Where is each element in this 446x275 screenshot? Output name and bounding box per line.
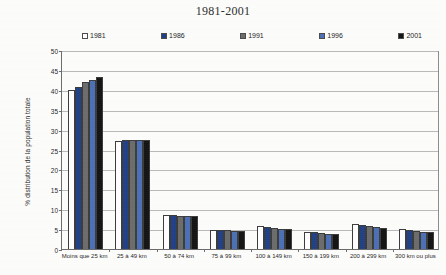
y-tick-label: 50 bbox=[51, 48, 58, 55]
legend-label: 2001 bbox=[406, 32, 422, 39]
bar-1996 bbox=[184, 216, 191, 249]
chart-legend: 19811986199119962001 bbox=[82, 29, 422, 42]
x-tick-label: 300 km ou plus bbox=[395, 253, 436, 259]
x-tick-mark bbox=[393, 249, 394, 252]
x-tick-mark bbox=[204, 249, 205, 252]
legend-label: 1986 bbox=[169, 32, 185, 39]
bar-group bbox=[393, 51, 440, 249]
bar-1991 bbox=[177, 216, 184, 249]
x-tick-mark bbox=[157, 249, 158, 252]
bar-2001 bbox=[285, 229, 292, 249]
bar-1981 bbox=[352, 224, 359, 249]
bar-2001 bbox=[380, 228, 387, 249]
bar-group bbox=[346, 51, 393, 249]
bar-1986 bbox=[311, 232, 318, 249]
bar-1981 bbox=[210, 230, 217, 250]
legend-swatch-icon bbox=[161, 33, 167, 39]
chart-figure: 1981-2001 19811986199119962001 % distrib… bbox=[0, 0, 446, 275]
bar-1996 bbox=[136, 140, 143, 249]
y-tick-label: 20 bbox=[51, 167, 58, 174]
legend-item-1991: 1991 bbox=[240, 32, 264, 39]
x-tick-label: 200 à 299 km bbox=[350, 253, 386, 259]
bar-1991 bbox=[318, 233, 325, 249]
bar-2001 bbox=[427, 232, 434, 249]
x-tick-mark bbox=[251, 249, 252, 252]
y-tick-label: 10 bbox=[51, 207, 58, 214]
y-tick-label: 0 bbox=[54, 247, 58, 254]
bar-2001 bbox=[96, 77, 103, 249]
bar-1986 bbox=[170, 215, 177, 249]
bar-group bbox=[204, 51, 251, 249]
y-tick-mark bbox=[59, 250, 62, 251]
legend-item-1996: 1996 bbox=[319, 32, 343, 39]
bar-group bbox=[62, 51, 109, 249]
bar-group bbox=[157, 51, 204, 249]
legend-item-2001: 2001 bbox=[398, 32, 422, 39]
y-axis-title: % distribution de la population totale bbox=[24, 67, 31, 237]
bar-1991 bbox=[129, 140, 136, 249]
bar-group bbox=[298, 51, 345, 249]
bar-1996 bbox=[231, 231, 238, 249]
bar-1986 bbox=[217, 230, 224, 249]
legend-item-1986: 1986 bbox=[161, 32, 185, 39]
bar-1986 bbox=[359, 225, 366, 249]
x-tick-label: Moins que 25 km bbox=[62, 253, 108, 259]
x-tick-label: 50 à 74 km bbox=[164, 253, 194, 259]
bar-1991 bbox=[224, 230, 231, 249]
bar-1996 bbox=[325, 234, 332, 249]
legend-swatch-icon bbox=[319, 33, 325, 39]
x-tick-label: 150 à 199 km bbox=[303, 253, 339, 259]
legend-swatch-icon bbox=[398, 33, 404, 39]
bar-1986 bbox=[122, 140, 129, 249]
x-tick-mark bbox=[109, 249, 110, 252]
y-tick-label: 25 bbox=[51, 147, 58, 154]
bar-1991 bbox=[366, 226, 373, 249]
x-tick-mark bbox=[346, 249, 347, 252]
y-tick-label: 5 bbox=[54, 227, 58, 234]
legend-swatch-icon bbox=[82, 33, 88, 39]
legend-label: 1991 bbox=[248, 32, 264, 39]
bar-group bbox=[251, 51, 298, 249]
legend-label: 1996 bbox=[327, 32, 343, 39]
bar-1996 bbox=[278, 229, 285, 249]
bar-2001 bbox=[332, 234, 339, 249]
bar-1981 bbox=[399, 229, 406, 249]
bar-1981 bbox=[304, 232, 311, 250]
bar-1981 bbox=[115, 141, 122, 249]
x-tick-label: 25 à 49 km bbox=[117, 253, 147, 259]
bar-1986 bbox=[75, 87, 82, 249]
x-tick-mark bbox=[298, 249, 299, 252]
plot-area: 05101520253035404550 bbox=[61, 51, 439, 250]
bar-2001 bbox=[191, 216, 198, 249]
bar-1981 bbox=[163, 215, 170, 249]
y-tick-label: 15 bbox=[51, 187, 58, 194]
chart-title: 1981-2001 bbox=[0, 4, 446, 19]
y-tick-label: 40 bbox=[51, 87, 58, 94]
bar-1986 bbox=[406, 230, 413, 249]
legend-item-1981: 1981 bbox=[82, 32, 106, 39]
x-tick-label: 75 à 99 km bbox=[212, 253, 242, 259]
bar-1991 bbox=[271, 228, 278, 249]
bar-group bbox=[109, 51, 156, 249]
y-tick-label: 45 bbox=[51, 67, 58, 74]
x-tick-label: 100 à 149 km bbox=[255, 253, 291, 259]
bar-1986 bbox=[264, 227, 271, 249]
bar-1996 bbox=[373, 227, 380, 249]
bar-1981 bbox=[257, 226, 264, 249]
bar-2001 bbox=[238, 231, 245, 249]
bar-2001 bbox=[143, 140, 150, 249]
bars-layer bbox=[62, 51, 438, 249]
y-tick-label: 30 bbox=[51, 127, 58, 134]
legend-swatch-icon bbox=[240, 33, 246, 39]
bar-1991 bbox=[413, 231, 420, 249]
bar-1996 bbox=[420, 232, 427, 250]
bar-1981 bbox=[68, 90, 75, 249]
bar-1991 bbox=[82, 82, 89, 249]
y-tick-label: 35 bbox=[51, 107, 58, 114]
bar-1996 bbox=[89, 80, 96, 249]
legend-label: 1981 bbox=[90, 32, 106, 39]
